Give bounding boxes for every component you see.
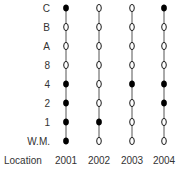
open-point: [97, 4, 102, 11]
x-axis-title: Location: [4, 155, 42, 166]
open-point: [130, 99, 135, 106]
row-label: B: [43, 22, 50, 33]
open-point: [97, 99, 102, 106]
filled-point: [63, 81, 68, 87]
column-2004: [161, 5, 166, 145]
filled-point: [96, 119, 101, 125]
open-point: [97, 42, 102, 49]
presence-chart: CBA8421W.M. Location 2001200220032004: [0, 0, 176, 169]
open-point: [130, 23, 135, 30]
row-labels: CBA8421W.M.: [27, 3, 50, 147]
row-label: C: [43, 3, 50, 14]
row-label: 2: [44, 98, 50, 109]
open-point: [162, 118, 167, 125]
x-tick-label: 2002: [88, 155, 111, 166]
x-tick-label: 2003: [121, 155, 144, 166]
x-tick-label: 2004: [153, 155, 176, 166]
filled-point: [161, 5, 166, 11]
filled-point: [161, 100, 166, 106]
row-label: 8: [44, 60, 50, 71]
filled-point: [63, 100, 68, 106]
open-point: [97, 137, 102, 144]
filled-point: [63, 138, 68, 144]
open-point: [162, 61, 167, 68]
open-point: [97, 61, 102, 68]
open-point: [130, 118, 135, 125]
row-label: 4: [44, 79, 50, 90]
filled-point: [63, 5, 68, 11]
open-point: [64, 61, 69, 68]
column-2001: [63, 5, 68, 144]
row-label: A: [43, 41, 50, 52]
open-point: [97, 23, 102, 30]
open-point: [162, 42, 167, 49]
open-point: [162, 137, 167, 144]
open-point: [97, 80, 102, 87]
open-point: [130, 42, 135, 49]
open-point: [162, 23, 167, 30]
x-tick-label: 2001: [55, 155, 78, 166]
filled-point: [129, 81, 134, 87]
column-2002: [96, 4, 101, 144]
x-axis-labels: Location 2001200220032004: [4, 155, 176, 166]
open-point: [64, 23, 69, 30]
open-point: [130, 137, 135, 144]
open-point: [130, 61, 135, 68]
open-point: [64, 42, 69, 49]
row-label: 1: [44, 117, 50, 128]
filled-point: [63, 119, 68, 125]
column-2003: [129, 4, 134, 144]
row-label: W.M.: [27, 136, 50, 147]
open-point: [130, 4, 135, 11]
filled-point: [161, 81, 166, 87]
columns: [63, 4, 166, 144]
